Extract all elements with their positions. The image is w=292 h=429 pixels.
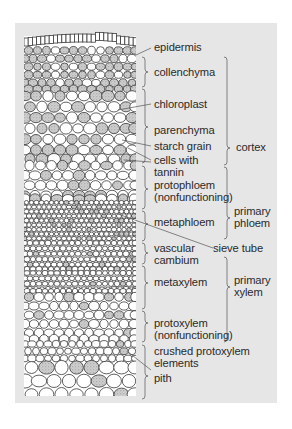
starch-grain-leader-line	[122, 140, 151, 146]
metaphloem-bracket	[142, 211, 148, 241]
label-pith: pith	[154, 373, 172, 385]
label-parenchyma: parenchyma	[154, 125, 215, 137]
vascular-cambium-bracket	[142, 243, 148, 264]
label-protophloem: protophloem (nonfunctioning)	[154, 180, 233, 203]
group-label-primary-phloem: primary phloem	[234, 206, 271, 229]
chloroplast-leader-line	[118, 104, 151, 110]
crushed-protoxylem-leader-line	[128, 352, 151, 370]
protoxylem-bracket	[142, 311, 148, 342]
label-starch-grain: starch grain	[154, 141, 211, 153]
label-collenchyma: collenchyma	[154, 67, 215, 79]
label-vascular-cambium: vascular cambium	[154, 243, 199, 266]
primary-phloem-bracket	[224, 167, 230, 239]
metaxylem-bracket	[142, 266, 148, 309]
cortex-bracket	[224, 57, 230, 165]
epidermis-leader-line	[136, 48, 151, 55]
pith-bracket	[142, 345, 148, 399]
parenchyma-bracket	[142, 89, 148, 163]
label-cells-with-tannin: cells with tannin	[154, 155, 198, 178]
tannin-leader-line	[124, 148, 151, 162]
label-protoxylem: protoxylem (nonfunctioning)	[154, 318, 233, 341]
group-label-cortex: cortex	[236, 142, 266, 154]
group-label-primary-xylem: primary xylem	[234, 275, 271, 298]
collenchyma-bracket	[142, 57, 148, 87]
label-sieve-tube: sieve tube	[213, 243, 263, 255]
label-metaphloem: metaphloem	[154, 217, 215, 229]
label-epidermis: epidermis	[154, 42, 202, 54]
protophloem-bracket	[142, 166, 148, 209]
label-chloroplast: chloroplast	[154, 99, 207, 111]
label-metaxylem: metaxylem	[154, 277, 207, 289]
label-crushed-protoxylem: crushed protoxylem elements	[154, 346, 250, 369]
